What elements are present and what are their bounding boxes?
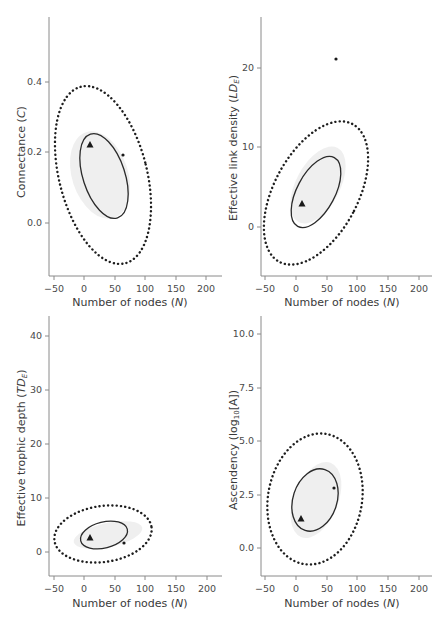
x-tick-label: 50: [109, 583, 121, 594]
y-tick-label: 10: [30, 492, 42, 503]
x-tick-label: 50: [321, 583, 333, 594]
y-tick-label: 0.0: [27, 217, 42, 228]
x-tick-label: 0: [293, 283, 299, 294]
x-tick-label: 100: [348, 583, 366, 594]
x-tick-label: 50: [321, 283, 333, 294]
panel-connectance: 0.4 0.2 0.0 −50 0 50 100 150 200 Number …: [15, 17, 222, 309]
x-tick-label: 150: [379, 283, 397, 294]
y-tick-label: 0: [36, 546, 42, 557]
x-tick-label: 0: [81, 583, 87, 594]
x-tick-label: 200: [197, 283, 215, 294]
star-marker: [122, 541, 125, 544]
panel-link-density: 20 10 0 −50 0 50 100 150 200 Number of n…: [227, 17, 432, 309]
y-tick-label: 2.5: [239, 489, 254, 500]
star-marker: [121, 153, 124, 156]
y-tick-label: 40: [30, 330, 42, 341]
x-axis-label: Number of nodes (N): [284, 296, 399, 309]
x-tick-label: 150: [167, 283, 185, 294]
y-axis-label: Effective trophic depth (TDE): [15, 369, 29, 526]
y-tick-label: 20: [242, 62, 254, 73]
x-tick-label: 150: [167, 583, 185, 594]
x-tick-label: 50: [109, 283, 121, 294]
x-axis-label: Number of nodes (N): [284, 597, 399, 610]
x-tick-label: 100: [348, 283, 366, 294]
x-tick-label: −50: [44, 583, 64, 594]
y-tick-label: 10.0: [233, 328, 254, 339]
x-axis-label: Number of nodes (N): [72, 597, 187, 610]
panel-ascendency: 10.0 7.5 5.0 2.5 0.0 −50 0 50 100 150 20…: [227, 316, 432, 610]
y-tick-label: 5.0: [239, 435, 254, 446]
y-tick-label: 7.5: [239, 382, 254, 393]
y-tick-label: 0.0: [239, 542, 254, 553]
x-tick-label: 0: [293, 583, 299, 594]
y-tick-label: 0.4: [27, 76, 42, 87]
y-axis-label: Ascendency (log10[A]): [227, 390, 241, 510]
x-axis-label: Number of nodes (N): [72, 296, 187, 309]
y-tick-label: 0.2: [27, 146, 42, 157]
x-tick-label: 200: [198, 583, 216, 594]
panel-trophic-depth: 40 30 20 10 0 −50 0 50 100 150 200 Numbe…: [15, 316, 222, 610]
x-tick-label: −50: [44, 283, 64, 294]
data-cloud: [281, 455, 352, 546]
y-axis-label: Effective link density (LDE): [227, 75, 241, 221]
x-tick-label: 200: [410, 283, 428, 294]
y-tick-label: 30: [30, 384, 42, 395]
y-axis-label: Connectance (C): [15, 106, 28, 198]
x-tick-label: 100: [136, 283, 154, 294]
data-cloud: [279, 138, 357, 233]
x-tick-label: 0: [81, 283, 87, 294]
y-tick-label: 10: [242, 141, 254, 152]
x-tick-label: −50: [255, 283, 275, 294]
figure-canvas: 0.4 0.2 0.0 −50 0 50 100 150 200 Number …: [0, 0, 447, 622]
x-tick-label: 150: [379, 583, 397, 594]
y-tick-label: 0: [248, 221, 254, 232]
x-tick-label: −50: [255, 583, 275, 594]
star-marker: [332, 486, 335, 489]
x-tick-label: 100: [136, 583, 154, 594]
star-marker: [334, 57, 337, 60]
x-tick-label: 200: [410, 583, 428, 594]
y-tick-label: 20: [30, 438, 42, 449]
